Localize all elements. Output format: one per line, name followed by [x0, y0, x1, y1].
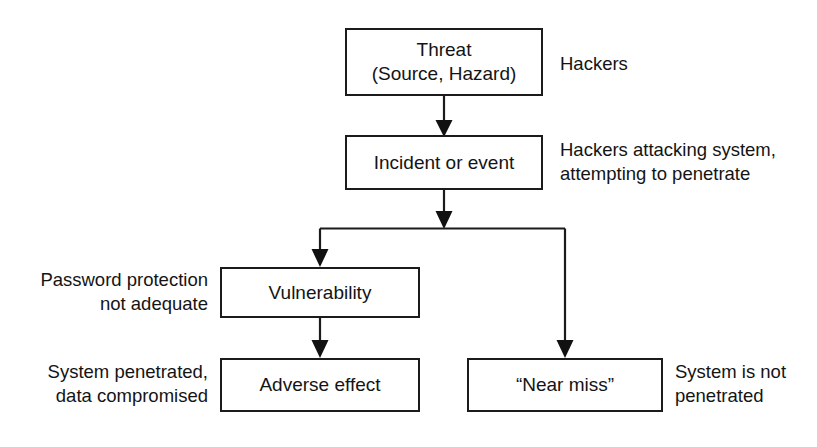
annotation-adverse-effect-note: System penetrated, data compromised	[8, 360, 208, 409]
node-threat-label: Threat (Source, Hazard)	[366, 38, 523, 86]
edge-split-to-vulnerability	[312, 229, 329, 268]
node-threat[interactable]: Threat (Source, Hazard)	[345, 28, 543, 96]
annotation-vulnerability-note: Password protection not adequate	[8, 268, 208, 317]
annotation-incident-note: Hackers attacking system, attempting to …	[560, 138, 776, 187]
node-incident-label: Incident or event	[368, 151, 520, 175]
edge-vulnerability-to-adverse-effect	[312, 318, 329, 358]
node-adverse-effect[interactable]: Adverse effect	[220, 358, 420, 412]
edge-threat-to-incident	[436, 96, 453, 137]
node-near-miss-label: “Near miss”	[510, 373, 620, 397]
node-incident[interactable]: Incident or event	[345, 135, 543, 190]
flowchart-canvas: Threat (Source, Hazard) Incident or even…	[0, 0, 817, 447]
node-adverse-effect-label: Adverse effect	[253, 373, 386, 397]
annotation-near-miss-note: System is not penetrated	[675, 360, 786, 409]
annotation-threat-note: Hackers	[560, 52, 628, 76]
edge-split-to-near-miss	[557, 229, 574, 359]
edge-incident-to-split	[436, 190, 453, 229]
node-near-miss[interactable]: “Near miss”	[467, 358, 663, 412]
node-vulnerability-label: Vulnerability	[263, 281, 378, 305]
node-vulnerability[interactable]: Vulnerability	[220, 267, 420, 318]
